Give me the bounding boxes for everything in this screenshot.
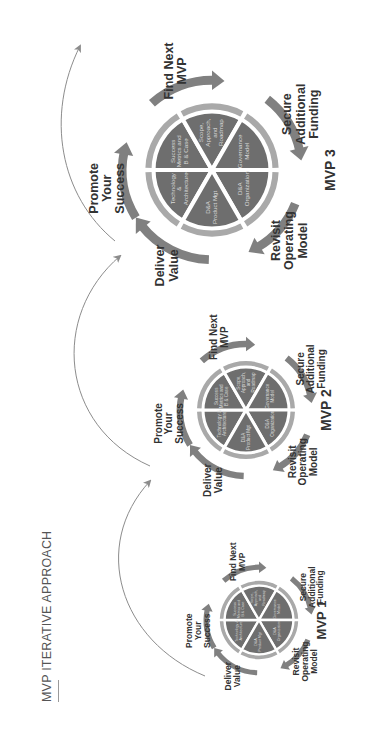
segment-success-metrics: SuccessMetrics andB & Case	[169, 135, 189, 167]
page-title: MVP ITERATIVE APPROACH	[40, 531, 54, 702]
segment-governance-model: GovernanceModel	[274, 599, 282, 619]
stage-label-promote: PromoteYourSuccess	[89, 163, 128, 214]
segment-tech-architecture: Technology&Architecture	[169, 172, 189, 205]
segment-da-product-mgt: D&AProduct Mgt	[205, 191, 219, 224]
segment-da-organization: D&AOrganization	[274, 621, 282, 641]
stage-label-deliver-value: DeliverValue	[203, 464, 224, 497]
cycle-arrowhead	[201, 604, 212, 612]
stage-label-secure-funding: SecureAdditionalFunding	[282, 84, 321, 145]
segment-da-organization: D&AOrganization	[238, 171, 252, 206]
cycle-arrowhead	[246, 337, 255, 351]
stage-label-deliver-value: DeliverValue	[154, 245, 180, 287]
stage-label-revisit-model: RevisitOperatingModel	[288, 438, 320, 485]
stage-label-find-next: Find NextMVP	[209, 314, 230, 360]
segment-scope-roadmap: Scope,Approach,andRoadmap	[251, 590, 267, 606]
segment-governance-model: GovernanceModel	[265, 384, 275, 409]
segment-tech-architecture: Technology &Architecture	[236, 620, 244, 642]
mvp-label-1: MVP 1	[314, 601, 329, 640]
stage-label-find-next: Find NextMVP	[229, 542, 247, 581]
diagram-canvas: MVP ITERATIVE APPROACH PromoteYourSucces…	[0, 0, 385, 736]
segment-success-metrics: SuccessMetrics andB & Case	[215, 384, 230, 408]
stage-label-promote: PromoteYourSuccess	[185, 614, 212, 649]
stage-label-revisit-model: RevisitOperatingModel	[292, 641, 319, 681]
mvp-label-3: MVP 3	[322, 149, 338, 191]
cycle-arrowhead	[259, 561, 266, 572]
segment-governance-model: GovernanceModel	[238, 134, 252, 168]
connector-mvp2-to-mvp3	[74, 256, 150, 466]
segment-da-product-mgt: D&AProduct Mgt	[241, 425, 251, 450]
segment-da-product-mgt: D&AProduct Mgt	[255, 632, 263, 651]
cycle-arrowhead	[212, 71, 224, 90]
segment-scope-roadmap: Scope,Approach,andRoadmap	[198, 119, 225, 147]
cycle-arrowhead	[114, 142, 133, 156]
segment-tech-architecture: Technology &Architecture	[217, 410, 227, 438]
stage-label-secure-funding: SecureAdditionalFunding	[296, 344, 328, 393]
stage-label-deliver-value: DeliverValue	[224, 662, 242, 690]
mvp-label-2: MVP 2	[318, 389, 334, 431]
stage-label-find-next: Find NextMVP	[163, 42, 189, 99]
stage-label-revisit-model: RevisitOperatingModel	[271, 211, 310, 270]
segment-da-organization: D&AOrganization	[265, 411, 275, 437]
stage-label-promote: PromoteYourSuccess	[154, 403, 186, 444]
title-underline	[58, 680, 59, 702]
segment-scope-roadmap: Scope,Approach,andRoadmap	[236, 372, 256, 393]
cycle-arrowhead	[174, 390, 188, 400]
segment-success-metrics: SuccessMetrics andB & Case	[234, 600, 246, 619]
